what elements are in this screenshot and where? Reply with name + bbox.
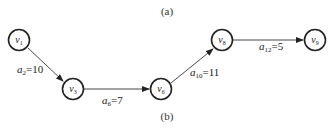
caption-a: (a) xyxy=(161,5,174,18)
node-v3: v3 xyxy=(63,79,84,100)
edge-label-a2: a2=10 xyxy=(17,63,44,77)
node-v9: v9 xyxy=(305,30,326,51)
edge-label-a10: a10=11 xyxy=(190,66,219,80)
edge-label-a6: a6=7 xyxy=(102,94,123,108)
node-v8: v8 xyxy=(212,30,233,51)
caption-b: (b) xyxy=(161,110,174,123)
node-v1: v1 xyxy=(9,30,30,51)
edge-label-a12: a12=5 xyxy=(259,40,284,54)
critical-path-diagram: (a) a2=10 a6=7 a10=11 a12=5 v1 v3 v6 v8 … xyxy=(0,0,335,132)
node-v6: v6 xyxy=(151,79,172,100)
